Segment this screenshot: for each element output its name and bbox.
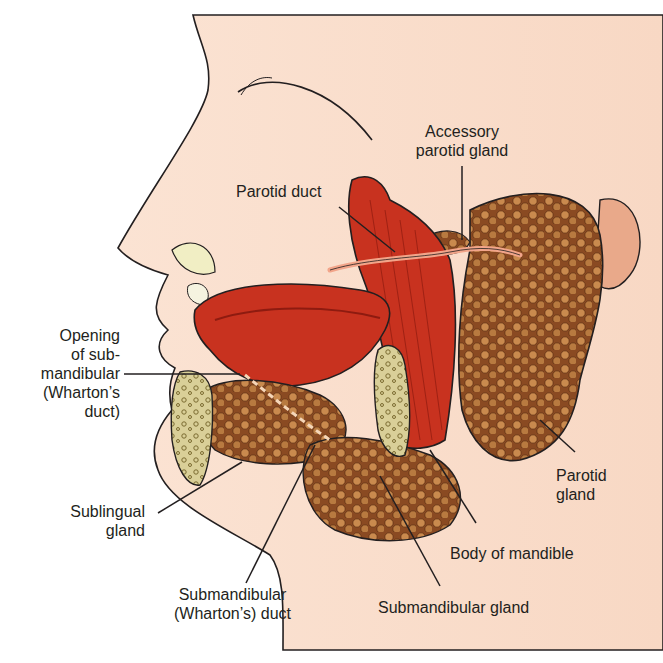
label-line: duct): [10, 402, 120, 421]
label-line: Parotid: [556, 466, 607, 485]
label-line: mandibular: [10, 364, 120, 383]
label-line: gland: [556, 485, 607, 504]
label-body-of-mandible: Body of mandible: [450, 544, 574, 563]
diagram-canvas: Accessory parotid gland Parotid duct Ope…: [0, 0, 663, 663]
label-line: Sublingual: [20, 502, 145, 521]
label-accessory-parotid-gland: Accessory parotid gland: [397, 122, 527, 160]
label-submandibular-gland: Submandibular gland: [378, 598, 529, 617]
label-line: (Wharton’s) duct: [150, 604, 315, 623]
label-submandibular-duct: Submandibular (Wharton’s) duct: [150, 585, 315, 623]
label-sublingual-gland: Sublingual gland: [20, 502, 145, 540]
label-parotid-duct: Parotid duct: [236, 182, 321, 201]
label-line: Submandibular: [150, 585, 315, 604]
label-line: Accessory: [397, 122, 527, 141]
label-line: parotid gland: [397, 141, 527, 160]
label-parotid-gland: Parotid gland: [556, 466, 607, 504]
label-line: of sub-: [10, 345, 120, 364]
label-line: Opening: [10, 326, 120, 345]
label-line: (Wharton’s: [10, 383, 120, 402]
label-line: gland: [20, 521, 145, 540]
label-opening-submandibular-duct: Opening of sub- mandibular (Wharton’s du…: [10, 326, 120, 421]
